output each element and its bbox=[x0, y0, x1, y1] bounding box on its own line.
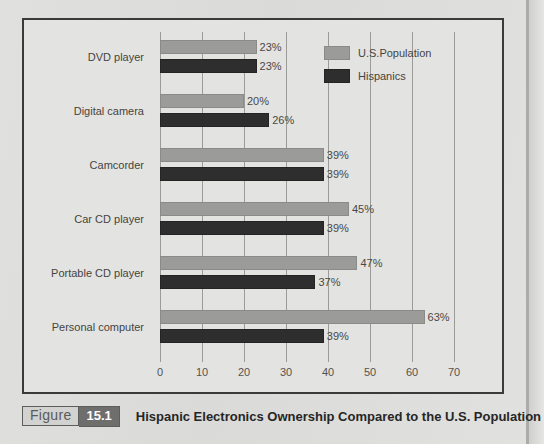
category-label: Portable CD player bbox=[51, 267, 144, 279]
x-axis-tick-label: 40 bbox=[322, 366, 334, 378]
bar-value-label: 39% bbox=[327, 222, 349, 234]
bar-value-label: 26% bbox=[272, 114, 294, 126]
bar-value-label: 39% bbox=[327, 330, 349, 342]
category-label: Personal computer bbox=[52, 321, 144, 333]
x-axis-tick-label: 50 bbox=[364, 366, 376, 378]
category-label: DVD player bbox=[88, 51, 144, 63]
bar-us-population bbox=[160, 148, 324, 162]
category-label: Car CD player bbox=[74, 213, 144, 225]
bar-value-label: 23% bbox=[260, 41, 282, 53]
bar-hispanics bbox=[160, 275, 315, 289]
figure-caption-text: Hispanic Electronics Ownership Compared … bbox=[136, 409, 541, 424]
figure-number-badge: 15.1 bbox=[79, 406, 119, 427]
bar-hispanics bbox=[160, 59, 257, 73]
bar-us-population bbox=[160, 256, 357, 270]
page-background: 010203040506070 23%23%20%26%39%39%45%39%… bbox=[0, 0, 544, 444]
x-axis-tick-label: 20 bbox=[238, 366, 250, 378]
bar-value-label: 20% bbox=[247, 95, 269, 107]
legend-label: Hispanics bbox=[358, 70, 406, 82]
legend-label: U.S.Population bbox=[358, 47, 431, 59]
bar-us-population bbox=[160, 40, 257, 54]
bar-hispanics bbox=[160, 329, 324, 343]
legend-swatch bbox=[324, 46, 350, 60]
x-axis-tick-label: 70 bbox=[448, 366, 460, 378]
legend-item: Hispanics bbox=[324, 69, 431, 83]
category-label: Digital camera bbox=[74, 105, 144, 117]
bar-value-label: 37% bbox=[318, 276, 340, 288]
category-label: Camcorder bbox=[90, 159, 144, 171]
bar-us-population bbox=[160, 310, 425, 324]
bar-value-label: 47% bbox=[360, 257, 382, 269]
x-axis-tick-label: 60 bbox=[406, 366, 418, 378]
page-gutter bbox=[529, 0, 544, 444]
bar-value-label: 45% bbox=[352, 203, 374, 215]
bar-value-label: 39% bbox=[327, 168, 349, 180]
gridline bbox=[454, 32, 455, 362]
x-axis-tick-label: 0 bbox=[157, 366, 163, 378]
bar-hispanics bbox=[160, 221, 324, 235]
bar-value-label: 63% bbox=[428, 311, 450, 323]
figure-caption-bar: Figure 15.1 Hispanic Electronics Ownersh… bbox=[22, 405, 541, 427]
bar-us-population bbox=[160, 202, 349, 216]
bar-hispanics bbox=[160, 167, 324, 181]
figure-label: Figure bbox=[22, 406, 79, 426]
chart-legend: U.S.PopulationHispanics bbox=[324, 46, 431, 92]
bar-us-population bbox=[160, 94, 244, 108]
bar-value-label: 23% bbox=[260, 60, 282, 72]
legend-swatch bbox=[324, 69, 350, 83]
x-axis-tick-label: 10 bbox=[196, 366, 208, 378]
legend-item: U.S.Population bbox=[324, 46, 431, 60]
bar-value-label: 39% bbox=[327, 149, 349, 161]
x-axis-tick-label: 30 bbox=[280, 366, 292, 378]
bar-hispanics bbox=[160, 113, 269, 127]
figure-frame: 010203040506070 23%23%20%26%39%39%45%39%… bbox=[22, 18, 504, 394]
